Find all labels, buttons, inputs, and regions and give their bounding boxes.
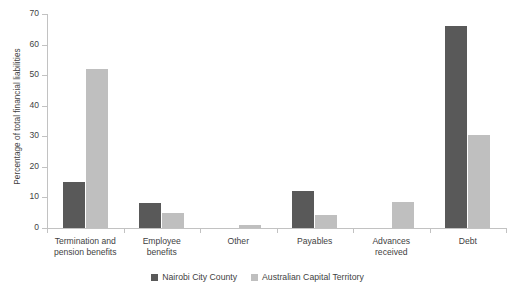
y-tick-label: 70 — [30, 8, 39, 18]
legend-item[interactable]: Australian Capital Territory — [251, 272, 364, 282]
y-tick-label: 0 — [34, 222, 39, 232]
y-tick-label: 20 — [30, 161, 39, 171]
x-tick — [353, 228, 354, 233]
x-axis-label: Advances received — [353, 236, 430, 259]
x-axis-label: Payables — [277, 236, 354, 247]
chart-legend: Nairobi City CountyAustralian Capital Te… — [0, 272, 515, 282]
x-axis-label: Termination and pension benefits — [47, 236, 124, 259]
x-tick — [200, 228, 201, 233]
bar — [445, 26, 467, 228]
y-tick: 10 — [42, 197, 47, 198]
bar — [63, 182, 85, 228]
y-tick: 50 — [42, 75, 47, 76]
legend-item[interactable]: Nairobi City County — [151, 272, 237, 282]
bar — [468, 135, 490, 228]
x-tick — [506, 228, 507, 233]
x-axis-label: Other — [200, 236, 277, 247]
legend-label: Australian Capital Territory — [262, 272, 364, 282]
bar — [139, 203, 161, 228]
x-tick — [430, 228, 431, 233]
bar — [392, 202, 414, 228]
x-tick — [47, 228, 48, 233]
y-tick-label: 40 — [30, 100, 39, 110]
x-tick — [277, 228, 278, 233]
legend-label: Nairobi City County — [162, 272, 237, 282]
legend-swatch-icon — [151, 274, 158, 281]
x-axis-label: Debt — [430, 236, 507, 247]
y-tick: 60 — [42, 45, 47, 46]
legend-swatch-icon — [251, 274, 258, 281]
bar — [239, 225, 261, 228]
y-tick: 20 — [42, 167, 47, 168]
y-tick: 70 — [42, 14, 47, 15]
bar — [162, 213, 184, 228]
y-tick-label: 10 — [30, 191, 39, 201]
x-tick — [124, 228, 125, 233]
y-axis-line — [47, 14, 48, 228]
bar — [315, 215, 337, 228]
x-axis-label: Employee benefits — [124, 236, 201, 259]
bar-chart: Percentage of total financial liabilitie… — [0, 0, 515, 294]
bar — [86, 69, 108, 228]
y-tick: 30 — [42, 136, 47, 137]
y-tick-label: 60 — [30, 39, 39, 49]
y-tick-label: 50 — [30, 69, 39, 79]
y-tick: 40 — [42, 106, 47, 107]
bar — [292, 191, 314, 228]
y-tick-label: 30 — [30, 130, 39, 140]
plot-area: 010203040506070 Termination and pension … — [47, 14, 506, 228]
y-axis-title: Percentage of total financial liabilitie… — [13, 17, 22, 217]
